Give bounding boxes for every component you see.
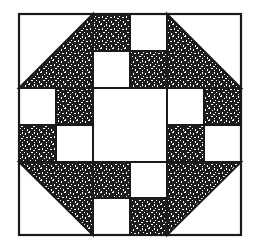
dark-square-left-r3-c0 bbox=[19, 125, 56, 162]
light-square-top-r0-c3 bbox=[130, 14, 167, 51]
quilt-block-diagram bbox=[0, 0, 253, 250]
light-square-bottom-r5-c2 bbox=[93, 198, 130, 235]
light-square-right-r2-c4 bbox=[167, 88, 204, 125]
dark-square-top-r0-c2 bbox=[93, 14, 130, 51]
dark-square-bottom-r5-c3 bbox=[130, 198, 167, 235]
dark-square-bottom-r4-c2 bbox=[93, 162, 130, 198]
light-square-top-r1-c2 bbox=[93, 51, 130, 88]
light-square-right-r3-c5 bbox=[204, 125, 241, 162]
dark-square-right-r2-c5 bbox=[204, 88, 241, 125]
dark-square-right-r3-c4 bbox=[167, 125, 204, 162]
dark-square-top-r1-c3 bbox=[130, 51, 167, 88]
center-square bbox=[93, 88, 167, 162]
dark-square-left-r2-c1 bbox=[56, 88, 93, 125]
light-square-bottom-r4-c3 bbox=[130, 162, 167, 198]
light-square-left-r3-c1 bbox=[56, 125, 93, 162]
light-square-left-r2-c0 bbox=[19, 88, 56, 125]
